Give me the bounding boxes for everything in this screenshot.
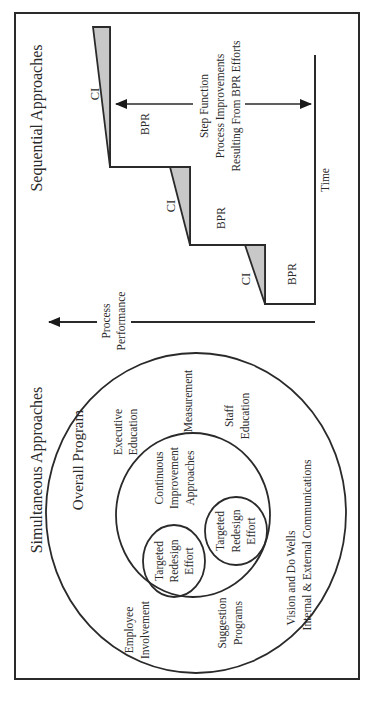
employee-involvement-line-1: Employee	[123, 607, 136, 654]
continuous-improvement-line-3: Approaches	[184, 450, 197, 505]
vision-do-wells-label: Vision and Do Wells	[285, 530, 297, 625]
step-function-line-3: Resulting From BPR Efforts	[230, 40, 243, 172]
targeted-1-line-1: Targeted	[153, 541, 166, 581]
ci-label-3: CI	[239, 273, 253, 286]
measurement-label: Measurement	[182, 369, 194, 432]
staff-education-line-2: Education	[239, 392, 251, 439]
targeted-1-line-2: Redesign	[168, 539, 181, 582]
overall-program-label: Overall Program	[70, 409, 86, 510]
bpr-label-2: BPR	[215, 207, 227, 229]
sequential-approaches-panel: Sequential Approaches CI BPR CI BPR CI B…	[28, 27, 331, 350]
executive-education-line-2: Education	[127, 408, 139, 455]
employee-involvement-line-2: Involvement	[139, 600, 151, 659]
simultaneous-approaches-panel: Simultaneous Approaches Overall Program …	[28, 353, 346, 673]
suggestion-programs-line-1: Suggestion	[216, 597, 229, 648]
continuous-improvement-line-2: Improvement	[168, 446, 181, 509]
ci-label-1: CI	[88, 88, 102, 101]
sequential-title: Sequential Approaches	[28, 44, 46, 191]
targeted-2-line-3: Effort	[245, 517, 257, 545]
continuous-improvement-line-1: Continuous	[153, 451, 165, 505]
process-performance-label-2: Performance	[115, 292, 127, 351]
process-performance-label-1: Process	[100, 303, 112, 339]
diagram-canvas: Sequential Approaches CI BPR CI BPR CI B…	[0, 0, 373, 703]
targeted-2-line-1: Targeted	[214, 511, 227, 551]
targeted-1-line-3: Effort	[183, 547, 195, 575]
bpr-staircase	[110, 27, 315, 304]
step-function-line-1: Step Function	[198, 74, 211, 138]
communications-label: Internal & External Communications	[301, 459, 313, 630]
targeted-2-line-2: Redesign	[230, 509, 243, 552]
step-function-line-2: Process Improvements	[214, 53, 227, 158]
simultaneous-title: Simultaneous Approaches	[28, 387, 46, 554]
suggestion-programs-line-2: Programs	[232, 600, 245, 645]
staff-education-line-1: Staff	[223, 405, 235, 427]
time-axis-label: Time	[319, 168, 331, 192]
ci-label-2: CI	[164, 200, 178, 213]
executive-education-line-1: Executive	[112, 409, 124, 455]
bpr-label-1: BPR	[139, 113, 151, 135]
bpr-label-3: BPR	[286, 263, 298, 285]
